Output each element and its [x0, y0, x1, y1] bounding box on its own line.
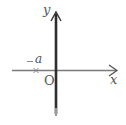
- axes-drawing: [0, 0, 126, 125]
- point-label-a: a: [35, 53, 42, 65]
- y-axis-label: y: [43, 3, 50, 16]
- coordinate-diagram: y x O a: [0, 0, 126, 125]
- x-axis-label: x: [110, 73, 117, 86]
- origin-label: O: [44, 74, 55, 87]
